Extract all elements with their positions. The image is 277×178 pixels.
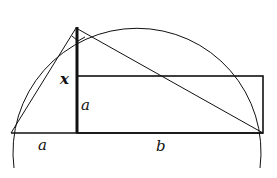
rectangle-a-by-b bbox=[77, 76, 263, 133]
right-chord bbox=[76, 28, 263, 133]
label-right-segment-b: b bbox=[156, 137, 166, 155]
label-left-segment-a: a bbox=[38, 136, 47, 154]
circle-arc bbox=[13, 28, 261, 168]
label-x: x bbox=[59, 70, 70, 88]
geometric-diagram: x a a b bbox=[0, 0, 277, 178]
label-rect-height-a: a bbox=[81, 96, 90, 114]
